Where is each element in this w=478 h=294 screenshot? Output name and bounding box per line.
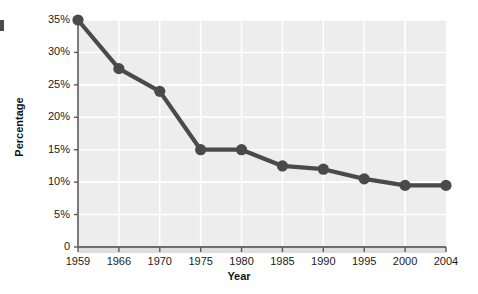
data-point-marker (195, 144, 206, 155)
data-point-marker (400, 180, 411, 191)
y-axis-title: Percentage (13, 87, 25, 167)
data-point-marker (154, 86, 165, 97)
plot-area (0, 0, 478, 294)
line-chart: Percentage Year 05%10%15%20%25%30%35% 19… (0, 0, 478, 294)
data-point-marker (72, 14, 83, 25)
data-point-marker (277, 160, 288, 171)
plot-background (78, 20, 446, 247)
data-point-marker (113, 63, 124, 74)
y-axis-tick-label: 35% (26, 13, 70, 25)
x-axis-shadow (78, 248, 446, 253)
data-point-marker (359, 173, 370, 184)
data-point-marker (440, 180, 451, 191)
y-axis-tick-label: 25% (26, 78, 70, 90)
x-axis-title: Year (0, 270, 478, 282)
y-axis-tick-label: 10% (26, 175, 70, 187)
data-point-marker (318, 164, 329, 175)
y-axis-tick-label: 20% (26, 110, 70, 122)
x-axis-tick-label: 2004 (422, 255, 470, 267)
y-axis-tick-label: 0 (26, 240, 70, 252)
y-axis-tick-label: 5% (26, 208, 70, 220)
y-axis-tick-label: 15% (26, 143, 70, 155)
y-axis-tick-label: 30% (26, 45, 70, 57)
data-point-marker (236, 144, 247, 155)
